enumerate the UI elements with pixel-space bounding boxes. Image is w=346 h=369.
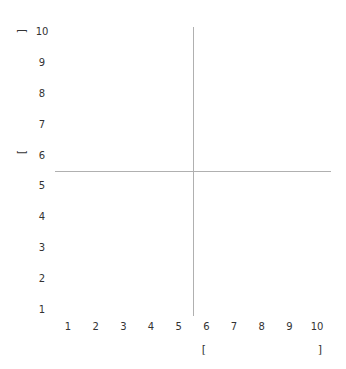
y-tick-label: 2: [39, 274, 45, 284]
x-tick-label: 7: [231, 322, 237, 332]
x-tick-label: 6: [203, 322, 209, 332]
x-tick-label: 9: [286, 322, 292, 332]
x-tick-label: 3: [120, 322, 126, 332]
x-tick-label: 5: [175, 322, 181, 332]
x-axis-label-close-bracket: ]: [318, 344, 322, 355]
crosshair-horizontal-line: [55, 171, 331, 172]
x-tick-label: 2: [92, 322, 98, 332]
y-tick-label: 4: [39, 212, 45, 222]
y-tick-label: 9: [39, 58, 45, 68]
x-tick-label: 4: [148, 322, 154, 332]
y-tick-label: 1: [39, 305, 45, 315]
y-tick-label: 3: [39, 243, 45, 253]
x-tick-label: 10: [311, 322, 324, 332]
y-tick-label: 6: [39, 151, 45, 161]
y-tick-label: 8: [39, 89, 45, 99]
y-tick-label: 10: [36, 27, 49, 37]
y-axis-label-open-bracket: ]: [16, 29, 27, 33]
y-tick-label: 7: [39, 120, 45, 130]
x-tick-label: 8: [258, 322, 264, 332]
y-tick-label: 5: [39, 181, 45, 191]
x-axis-label-open-bracket: [: [202, 344, 206, 355]
x-tick-label: 1: [65, 322, 71, 332]
y-axis-label-close-bracket: [: [16, 150, 27, 154]
